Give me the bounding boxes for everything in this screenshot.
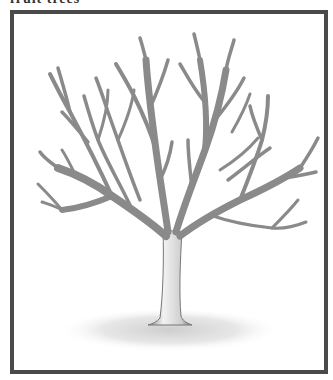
tree-illustration [0, 0, 333, 380]
tree-branches [38, 34, 318, 236]
